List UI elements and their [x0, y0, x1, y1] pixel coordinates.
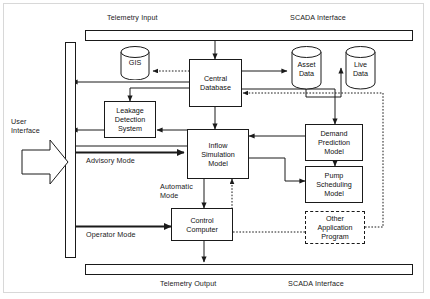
- control-computer-node: Control Computer: [171, 208, 233, 241]
- inflow-simulation-model-label: Inflow Simulation Model: [188, 130, 248, 178]
- asset-data-line2: Data: [299, 68, 314, 77]
- asset-data-store-label: Asset Data: [291, 61, 322, 78]
- oap-line3: Program: [321, 232, 349, 241]
- user-interface-label: User Interface: [11, 118, 40, 136]
- other-application-program-node: Other Application Program: [305, 211, 365, 244]
- demand-prediction-model-label: Demand Prediction Model: [306, 125, 362, 160]
- oap-line1: Other: [326, 214, 344, 223]
- central-database-line2: Database: [200, 83, 231, 92]
- gis-store: GIS: [120, 46, 150, 80]
- operator-mode-label: Operator Mode: [86, 231, 136, 240]
- dpm-line2: Prediction: [318, 138, 350, 147]
- inflow-simulation-model-node: Inflow Simulation Model: [187, 129, 249, 179]
- live-data-store: Live Data: [345, 46, 376, 90]
- psm-line3: Model: [324, 189, 344, 198]
- telemetry-output-label: Telemetry Output: [160, 280, 216, 289]
- automatic-mode-label-line1: Automatic: [160, 182, 193, 191]
- cc-line1: Control: [190, 216, 213, 225]
- scada-interface-top-label: SCADA Interface: [290, 14, 346, 23]
- other-application-program-label: Other Application Program: [306, 212, 364, 243]
- oap-line2: Application: [317, 223, 352, 232]
- dpm-line1: Demand: [320, 129, 347, 138]
- advisory-mode-label: Advisory Mode: [86, 157, 135, 166]
- asset-data-store: Asset Data: [291, 46, 322, 90]
- ism-line2: Simulation: [201, 150, 235, 159]
- ism-line1: Inflow: [209, 141, 228, 150]
- pump-scheduling-model-label: Pump Scheduling Model: [306, 167, 362, 202]
- gis-store-label: GIS: [120, 59, 150, 68]
- leakage-detection-system-label: Leakage Detection System: [105, 102, 155, 137]
- central-database-label: Central Database: [190, 60, 241, 106]
- telemetry-input-label: Telemetry Input: [107, 14, 158, 23]
- scada-interface-bottom-label: SCADA Interface: [288, 280, 344, 289]
- automatic-mode-label: Automatic Mode: [160, 182, 193, 200]
- leakage-detection-system-node: Leakage Detection System: [104, 101, 156, 138]
- psm-line2: Scheduling: [316, 180, 352, 189]
- control-computer-label: Control Computer: [172, 209, 232, 240]
- live-data-line2: Data: [353, 68, 368, 77]
- dpm-line3: Model: [324, 147, 344, 156]
- demand-prediction-model-node: Demand Prediction Model: [305, 124, 363, 161]
- live-data-store-label: Live Data: [345, 61, 376, 78]
- psm-line1: Pump: [325, 171, 344, 180]
- ism-line3: Model: [208, 159, 228, 168]
- pump-scheduling-model-node: Pump Scheduling Model: [305, 166, 363, 203]
- user-interface-label-line1: User: [11, 117, 27, 126]
- lds-line1: Leakage: [116, 106, 144, 115]
- lds-line3: System: [118, 124, 142, 133]
- cc-line2: Computer: [186, 225, 218, 234]
- automatic-mode-label-line2: Mode: [160, 191, 178, 200]
- telemetry-input-bar: [85, 30, 413, 41]
- user-interface-label-line2: Interface: [11, 126, 40, 135]
- central-database-node: Central Database: [189, 59, 242, 107]
- diagram-canvas: Telemetry Input SCADA Interface Telemetr…: [0, 0, 430, 299]
- central-database-line1: Central: [204, 74, 227, 83]
- lds-line2: Detection: [115, 115, 145, 124]
- user-interface-arrow-icon: [20, 138, 70, 188]
- telemetry-output-bar: [85, 264, 413, 275]
